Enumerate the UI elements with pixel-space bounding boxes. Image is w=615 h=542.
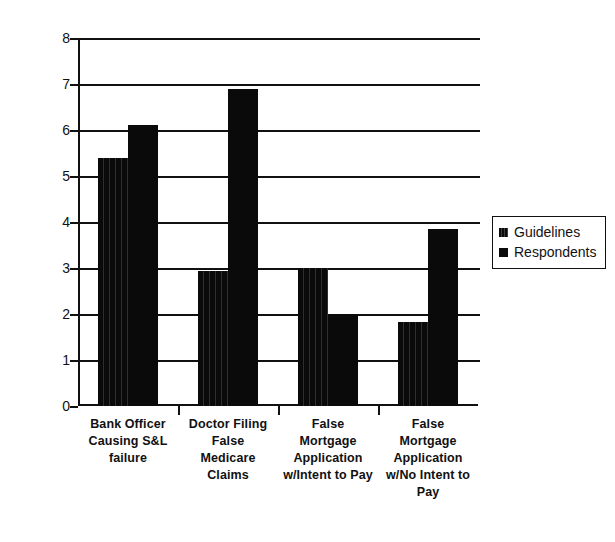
x-category-label-3: FalseMortgageApplicationw/No Intent toPa… — [354, 416, 502, 501]
y-tick-label-3: 3 — [44, 261, 70, 275]
legend-swatch-respondents-icon — [499, 248, 508, 257]
y-tick-label-5: 5 — [44, 169, 70, 183]
legend: Guidelines Respondents — [492, 216, 606, 269]
bar-respondents-0 — [128, 125, 158, 406]
bar-guidelines-3 — [398, 322, 428, 406]
legend-label-respondents: Respondents — [514, 244, 597, 260]
y-axis: 876543210 — [34, 38, 70, 406]
bar-respondents-3 — [428, 229, 458, 406]
legend-label-guidelines: Guidelines — [514, 224, 580, 240]
y-tick-label-1: 1 — [44, 353, 70, 367]
legend-swatch-guidelines-icon — [499, 228, 508, 237]
bar-guidelines-2 — [298, 268, 328, 406]
y-tick-label-6: 6 — [44, 123, 70, 137]
y-tick-label-8: 8 — [44, 31, 70, 45]
y-tick-mark-0 — [70, 406, 78, 408]
y-tick-mark-7 — [70, 84, 78, 86]
legend-item-guidelines: Guidelines — [499, 222, 597, 242]
y-tick-mark-3 — [70, 268, 78, 270]
y-tick-mark-6 — [70, 130, 78, 132]
y-tick-mark-5 — [70, 176, 78, 178]
y-tick-label-0: 0 — [44, 399, 70, 413]
x-axis-category-labels: Bank OfficerCausing S&LfailureDoctor Fil… — [60, 416, 540, 536]
y-tick-label-7: 7 — [44, 77, 70, 91]
bar-guidelines-0 — [98, 158, 128, 406]
y-tick-mark-4 — [70, 222, 78, 224]
x-tick-mark-1 — [178, 406, 180, 415]
x-tick-mark-3 — [378, 406, 380, 415]
y-tick-mark-1 — [70, 360, 78, 362]
bars-layer — [78, 38, 478, 406]
legend-item-respondents: Respondents — [499, 242, 597, 262]
bar-respondents-1 — [228, 89, 258, 406]
y-tick-mark-8 — [70, 38, 78, 40]
x-tick-mark-2 — [278, 406, 280, 415]
y-tick-mark-2 — [70, 314, 78, 316]
y-tick-label-4: 4 — [44, 215, 70, 229]
bar-guidelines-1 — [198, 271, 228, 406]
bar-chart: 876543210 Bank OfficerCausing S&Lfailure… — [0, 0, 615, 542]
y-tick-label-2: 2 — [44, 307, 70, 321]
bar-respondents-2 — [328, 314, 358, 406]
